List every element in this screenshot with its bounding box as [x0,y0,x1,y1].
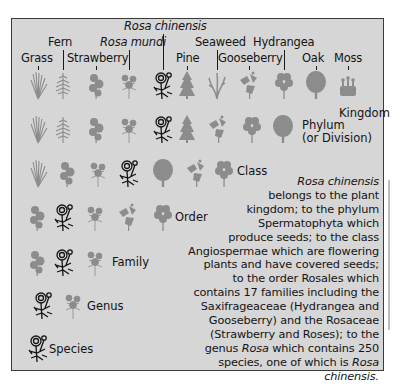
oak-icon [272,114,294,144]
description-line: produce seeds; to the class [129,231,379,245]
strawberry-icon [26,247,48,277]
moss-icon [337,70,359,100]
label-rosa-chinensis: Rosa chinensis [124,20,207,33]
leader-hydrangea [284,50,285,70]
leader-rosa-mundi [129,50,130,70]
description-text: genus [205,342,242,355]
description-text: kingdom; to the phylum [246,203,379,216]
description-line: Saxifrageaceae (Hydrangea and [129,300,379,314]
rank-phylum-sub: (or Division) [302,132,372,145]
leader-rosa-chinensis [163,34,164,70]
description-line: chinensis. [129,370,379,384]
description-paragraph: Rosa chinensisbelongs to the plantkingdo… [129,175,379,384]
label-grass: Grass [21,52,53,65]
description-text: Gooseberry) and the Rosaceae [209,314,379,327]
description-text: contains 17 families including the [193,286,379,299]
grass-icon [27,158,49,188]
description-line: to the order Rosales which [129,272,379,286]
rosa-chinensis-icon [53,247,75,277]
description-text: Angiospermae which are flowering [188,245,379,258]
description-line: kingdom; to the phylum [129,203,379,217]
description-line: contains 17 families including the [129,286,379,300]
fern-icon [52,70,74,100]
grass-icon [27,70,49,100]
description-text: species, one of which is [218,356,352,369]
description-text: (Strawberry and Roses); to the [210,328,379,341]
rosa-chinensis-icon [27,333,49,363]
description-text: belongs to the plant [268,189,379,202]
label-pine: Pine [176,52,199,65]
leader-fern [63,50,64,70]
description-text: Rosa chinensis [297,175,379,188]
description-line: Rosa chinensis [129,175,379,189]
description-text: Saxifrageaceae (Hydrangea and [201,300,379,313]
description-text: chinensis. [324,370,379,383]
leader-seaweed [217,50,218,70]
description-text: which contains 250 [269,342,379,355]
fern-icon [52,114,74,144]
pine-icon [176,114,198,144]
rosa-chinensis-icon [32,290,54,320]
rosa-mundi-icon [118,70,140,100]
description-text: Rosa [242,342,269,355]
gooseberry-icon [238,70,260,100]
strawberry-icon [56,158,78,188]
oak-icon [305,70,327,100]
description-line: Spermatophyta which [129,217,379,231]
label-oak: Oak [302,52,324,65]
description-line: Gooseberry) and the Rosaceae [129,314,379,328]
hydrangea-icon [273,70,295,100]
description-line: species, one of which is Rosa [129,356,379,370]
description-text: plants and have covered seeds; [204,258,379,271]
description-line: plants and have covered seeds; [129,258,379,272]
description-text: Spermatophyta which [258,217,379,230]
description-line: belongs to the plant [129,189,379,203]
label-rosa-mundi: Rosa mundi [100,36,166,49]
rosa-mundi-icon [62,290,84,320]
label-hydrangea: Hydrangea [253,36,314,49]
description-text: produce seeds; to the class [228,231,379,244]
label-seaweed: Seaweed [195,36,246,49]
rank-species: Species [49,343,93,356]
description-line: Angiospermae which are flowering [129,245,379,259]
description-line: genus Rosa which contains 250 [129,342,379,356]
page-edge [388,180,390,330]
rank-kingdom: Kingdom [339,107,390,120]
rank-genus: Genus [87,300,124,313]
rosa-chinensis-icon [53,202,75,232]
description-text: to the order Rosales which [233,272,379,285]
pine-icon [176,70,198,100]
label-gooseberry: Gooseberry [218,52,283,65]
strawberry-icon [85,114,107,144]
label-strawberry: Strawberry [67,52,128,65]
rosa-mundi-icon [84,202,106,232]
gooseberry-icon [207,114,229,144]
seaweed-icon [206,70,228,100]
rosa-mundi-icon [87,158,109,188]
hydrangea-icon [241,114,263,144]
rosa-chinensis-icon [152,70,174,100]
strawberry-icon [26,202,48,232]
description-line: (Strawberry and Roses); to the [129,328,379,342]
grass-icon [27,114,49,144]
label-fern: Fern [48,36,72,49]
rosa-mundi-icon [84,247,106,277]
rosa-mundi-icon [118,114,140,144]
rosa-chinensis-icon [152,114,174,144]
strawberry-icon [85,70,107,100]
description-text: Rosa [352,356,379,369]
label-moss: Moss [334,52,362,65]
